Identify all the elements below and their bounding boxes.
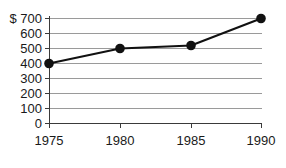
x-axis-label-1975: 1975: [35, 133, 64, 148]
x-axis-label-1985: 1985: [177, 133, 206, 148]
data-point-1985: [186, 41, 196, 51]
data-point-1990: [256, 14, 266, 24]
x-axis-label-1990: 1990: [247, 133, 276, 148]
y-axis-label-500: 500: [20, 41, 42, 56]
data-point-1975: [44, 59, 54, 69]
y-axis-label-600: 600: [20, 26, 42, 41]
data-point-1980: [115, 44, 125, 54]
line-chart: $ 700 600 500 400 300 200 100 0 1975 198…: [0, 0, 286, 168]
y-axis-label-300: 300: [20, 71, 42, 86]
x-axis-label-1980: 1980: [106, 133, 135, 148]
y-axis-label-700: $ 700: [9, 11, 42, 26]
y-axis-label-400: 400: [20, 56, 42, 71]
y-axis-label-0: 0: [35, 116, 42, 131]
y-axis-label-200: 200: [20, 86, 42, 101]
y-axis-label-100: 100: [20, 101, 42, 116]
chart-canvas: $ 700 600 500 400 300 200 100 0 1975 198…: [0, 0, 286, 168]
